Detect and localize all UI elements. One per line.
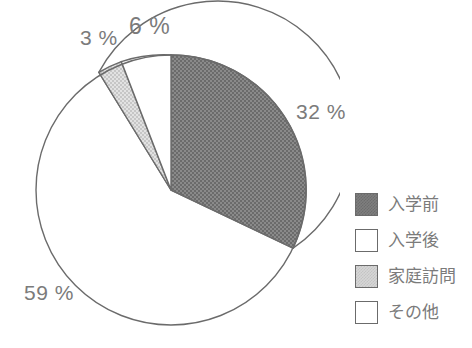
legend-swatch-dark-gray-icon [355,193,378,216]
data-label-nyugakugo: 59 % [24,281,74,305]
legend-swatch-white-icon [355,229,378,252]
data-label-kateihoumon: 3 % [80,26,118,50]
legend-swatch-white-icon [355,301,378,324]
legend-item-nyugakumae[interactable]: 入学前 [355,186,472,222]
data-label-sonota: 6 % [129,13,170,40]
chart-legend: 入学前 入学後 家庭訪問 その他 [355,186,472,330]
pie-chart-plot-area: 32 % 59 % 3 % 6 % [0,0,340,348]
legend-item-nyugakugo[interactable]: 入学後 [355,222,472,258]
legend-item-kateihoumon[interactable]: 家庭訪問 [355,258,472,294]
legend-label-nyugakugo: 入学後 [388,232,439,249]
legend-swatch-light-gray-icon [355,265,378,288]
pie-chart-figure: 32 % 59 % 3 % 6 % 入学前 入学後 家庭訪問 その他 [0,0,472,348]
data-label-nyugakumae: 32 % [296,100,346,124]
legend-item-sonota[interactable]: その他 [355,294,472,330]
legend-label-kateihoumon: 家庭訪問 [388,268,456,285]
legend-label-sonota: その他 [388,304,439,321]
legend-label-nyugakumae: 入学前 [388,196,439,213]
